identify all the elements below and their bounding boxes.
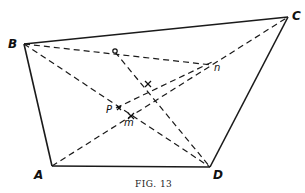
diagonal-b-d	[24, 44, 210, 167]
edge-c-d	[210, 17, 288, 167]
label-m: m	[124, 117, 134, 128]
line-o-d	[115, 52, 210, 167]
diagonal-a-c	[52, 17, 288, 166]
edge-d-a	[52, 166, 210, 167]
label-a: A	[33, 168, 43, 182]
line-b-n	[24, 44, 212, 65]
point-o-marker	[113, 49, 117, 53]
label-n: n	[214, 62, 220, 73]
label-p: P	[106, 104, 113, 115]
edge-b-c	[24, 17, 288, 44]
line-p-n	[116, 62, 212, 108]
figure-diagram: B C A D n P m FIG. 13	[0, 0, 305, 193]
point-x-marker	[145, 81, 151, 87]
label-b: B	[8, 37, 17, 51]
figure-caption: FIG. 13	[135, 179, 172, 189]
edge-a-b	[24, 44, 52, 166]
label-c: C	[292, 9, 301, 23]
label-d: D	[213, 168, 223, 182]
